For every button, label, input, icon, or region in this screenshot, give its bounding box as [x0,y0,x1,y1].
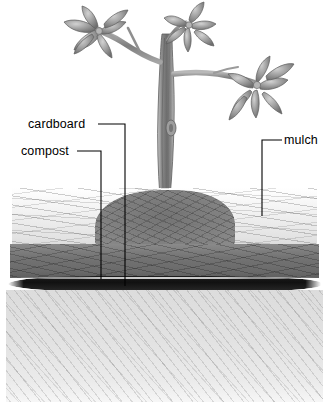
ground-cross-section [0,160,327,400]
diagram-canvas: cardboard compost mulch [0,0,327,416]
soil-layer [6,290,323,402]
leaf-cluster-left [64,6,128,58]
label-compost: compost [21,145,69,158]
label-mulch: mulch [284,134,318,147]
label-cardboard: cardboard [28,118,85,131]
cardboard-edge-highlight [8,277,321,279]
compost-layer [10,244,319,278]
leaf-cluster-right [228,56,294,120]
compost-mound [95,190,235,248]
